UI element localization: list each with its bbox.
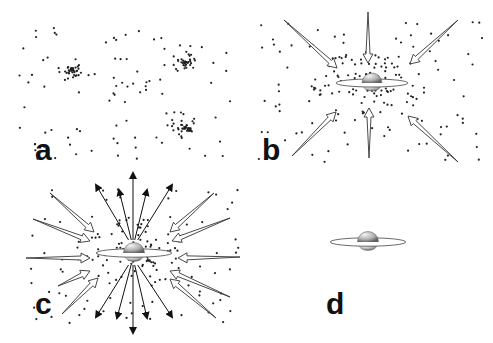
particle-dot [334,36,336,38]
particle-dot [159,279,161,281]
particle-dot [225,70,227,72]
infall-arrow [178,253,240,263]
particle-dot [108,282,110,284]
particle-dot [475,133,477,135]
particle-dot [102,189,104,191]
particle-dot [352,93,354,95]
infall-arrow [170,279,216,318]
particle-dot [42,59,44,61]
particle-dot [400,41,402,43]
particle-dot [65,295,67,297]
particle-dot [187,284,189,286]
particle-dot [115,39,117,41]
particle-dot [444,159,446,161]
particle-dot [324,85,326,87]
particle-dot [198,294,200,296]
particle-dot [98,275,100,277]
particle-dot [175,68,177,70]
particle-dot [180,120,182,122]
particle-dot [115,124,117,126]
particle-dot [446,126,448,128]
particle-dot [323,161,325,163]
particle-dot [456,114,458,116]
particle-dot [44,218,46,220]
particle-dot [311,122,313,124]
particle-dot [60,268,62,270]
particle-dot [385,66,387,68]
particle-dot [398,74,400,76]
particle-dot [317,29,319,31]
particle-dot [51,189,53,191]
particle-dot [384,58,386,60]
particle-dot [54,157,56,159]
particle-dot [214,116,216,118]
particle-dot [164,278,166,280]
particle-dot [19,127,21,129]
infall-arrow [62,278,98,314]
particle-dot [231,202,233,204]
star-sphere [124,243,145,254]
particle-dot [219,299,221,301]
particle-dot [78,91,80,93]
particle-dot [347,143,349,145]
particle-dot [31,74,33,76]
particle-dot [215,193,217,195]
particle-dot [151,301,153,303]
particle-dot [108,100,110,102]
particle-dot [105,41,107,43]
particle-dot [102,264,104,266]
particle-dot [150,261,152,263]
particle-dot [355,73,357,75]
particle-dot [109,297,111,299]
particle-dot [75,153,77,155]
particle-dot [286,66,288,68]
particle-dot [373,67,375,69]
particle-dot [481,37,483,39]
particle-dot [67,77,69,79]
particle-dot [125,120,127,122]
particle-dot [189,148,191,150]
particle-dot [147,219,149,221]
particle-dot [67,67,69,69]
particle-dot [338,91,340,93]
particle-dot [131,275,133,277]
particle-dot [201,46,203,48]
particle-dot [112,92,114,94]
particle-dot [153,38,155,40]
particle-dot [182,60,184,62]
particle-dot [351,59,353,61]
particle-dot [119,247,121,249]
particle-dot [113,138,115,140]
particle-dot [62,271,64,273]
particle-dot [135,147,137,149]
particle-dot [175,190,177,192]
particle-dot [354,119,356,121]
particle-dot [121,82,123,84]
particle-dot [279,51,281,53]
panel-label-a: a [35,133,52,166]
particle-dot [125,34,127,36]
particle-dot [352,88,354,90]
particle-dot [207,191,209,193]
particle-dot [440,133,442,135]
infall-arrow [408,116,458,162]
particle-dot [185,64,187,66]
particle-dot [142,219,144,221]
particle-dot [418,73,420,75]
particle-dot [182,113,184,115]
particle-dot [156,269,158,271]
particle-dot [91,150,93,152]
particle-dot [121,242,123,244]
particle-dot [345,56,347,58]
particle-dot [383,135,385,137]
particle-dot [148,80,150,82]
particle-dot [116,223,118,225]
particle-dot [405,22,407,24]
particle-dot [167,197,169,199]
particle-dot [396,65,398,67]
particle-dot [462,118,464,120]
particle-dot [180,314,182,316]
particle-dot [237,247,239,249]
particle-dot [410,34,412,36]
particle-dot [129,302,131,304]
